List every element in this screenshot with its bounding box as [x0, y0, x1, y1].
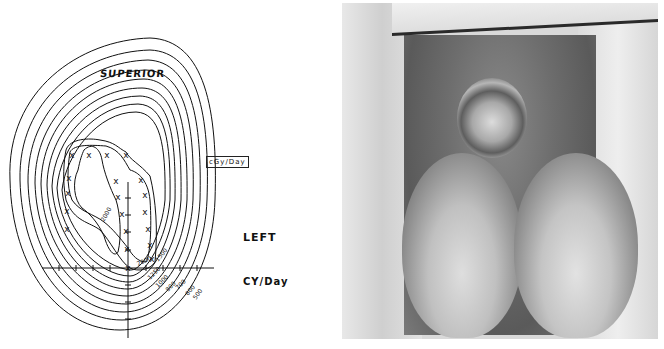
isodose-diagram: xxxx xxxx xxxxx xxxxxx x 2000 2000 1500 … [0, 0, 330, 349]
svg-text:x: x [113, 176, 119, 186]
svg-text:x: x [64, 206, 70, 216]
thigh-right [514, 153, 638, 338]
svg-text:x: x [123, 150, 129, 160]
label-left: LEFT [243, 231, 277, 244]
svg-text:x: x [142, 190, 148, 200]
clinical-photograph [342, 3, 658, 339]
svg-text:x: x [138, 175, 144, 185]
svg-text:x: x [142, 207, 148, 217]
svg-text:x: x [104, 150, 110, 160]
svg-text:x: x [115, 192, 121, 202]
svg-text:2000: 2000 [135, 254, 152, 267]
svg-text:x: x [123, 226, 129, 236]
svg-text:x: x [69, 150, 75, 160]
label-superior: SUPERIOR [99, 68, 165, 79]
svg-text:2000: 2000 [99, 206, 113, 223]
svg-text:x: x [147, 240, 153, 250]
svg-text:x: x [145, 224, 151, 234]
label-unit: CY/Day [243, 276, 289, 287]
svg-text:x: x [86, 150, 92, 160]
svg-text:x: x [65, 188, 71, 198]
lesion-region [457, 78, 527, 158]
svg-text:x: x [124, 244, 130, 254]
svg-text:x: x [125, 263, 131, 273]
label-unit-box: cGy/Day [206, 156, 249, 168]
thigh-left [402, 153, 522, 338]
svg-text:x: x [64, 224, 70, 234]
svg-text:x: x [66, 173, 72, 183]
svg-text:x: x [119, 209, 125, 219]
isodose-contours: xxxx xxxx xxxxx xxxxxx x 2000 2000 1500 … [0, 0, 330, 349]
